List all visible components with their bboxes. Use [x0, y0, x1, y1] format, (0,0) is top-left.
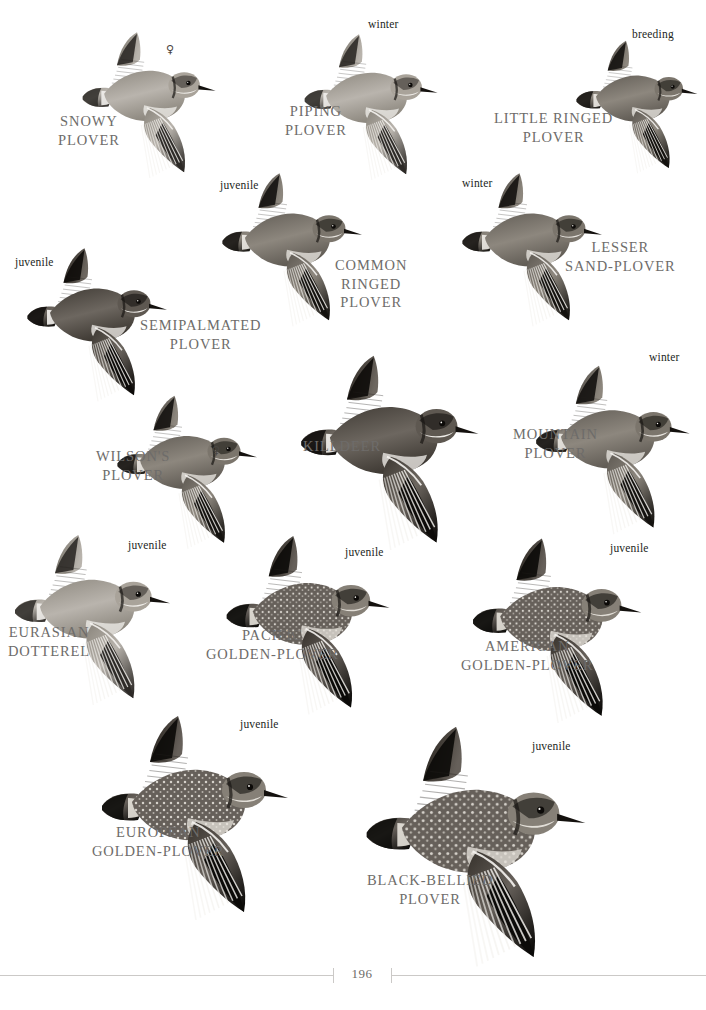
- plumage-note-mountain-plover: winter: [649, 351, 680, 363]
- plumage-note-piping-plover: winter: [368, 18, 399, 30]
- species-label-semipalmated-plover: SEMIPALMATED PLOVER: [140, 316, 261, 353]
- plumage-note-pacific-golden-plover: juvenile: [345, 546, 384, 558]
- female-symbol-wilsons-plover: ♀: [212, 444, 220, 457]
- species-label-eurasian-dotterel: EURASIAN DOTTEREL: [8, 623, 90, 660]
- page-number: 196: [333, 966, 391, 982]
- species-label-lesser-sand-plover: LESSER SAND-PLOVER: [565, 238, 676, 275]
- species-label-american-golden-plover: AMERICAN GOLDEN-PLOVER: [461, 637, 594, 674]
- plumage-note-common-ringed-plover: juvenile: [220, 179, 259, 191]
- species-label-european-golden-plover: EUROPEAN GOLDEN-PLOVER: [92, 823, 225, 860]
- species-label-little-ringed-plover: LITTLE RINGED PLOVER: [494, 109, 613, 146]
- bird-illustration-american-golden-plover: [462, 533, 647, 723]
- female-symbol-snowy-plover: ♀: [166, 43, 174, 56]
- plumage-note-little-ringed-plover: breeding: [632, 28, 674, 40]
- plumage-note-american-golden-plover: juvenile: [610, 542, 649, 554]
- plumage-note-european-golden-plover: juvenile: [240, 718, 279, 730]
- bird-illustration-little-ringed-plover: [570, 30, 700, 180]
- plumage-note-eurasian-dotterel: juvenile: [128, 539, 167, 551]
- plumage-note-lesser-sand-plover: winter: [462, 177, 493, 189]
- footer-rule-left: [0, 975, 333, 976]
- plate-page: SNOWY PLOVER♀PIPING PLOVERwinterLITTLE R…: [0, 0, 706, 1010]
- footer-rule-right: [392, 975, 706, 976]
- species-label-mountain-plover: MOUNTAIN PLOVER: [513, 425, 598, 462]
- bird-illustration-black-bellied-plover: [355, 718, 590, 968]
- page-footer: 196: [0, 964, 706, 986]
- species-label-common-ringed-plover: COMMON RINGED PLOVER: [335, 256, 407, 312]
- bird-illustration-european-golden-plover: [92, 705, 292, 925]
- bird-illustration-snowy-plover: [72, 28, 222, 178]
- species-label-black-bellied-plover: BLACK-BELLIED PLOVER: [367, 871, 493, 908]
- plumage-note-semipalmated-plover: juvenile: [15, 256, 54, 268]
- species-label-killdeer: KILLDEER: [303, 437, 381, 456]
- species-label-piping-plover: PIPING PLOVER: [285, 102, 347, 139]
- species-label-snowy-plover: SNOWY PLOVER: [58, 112, 120, 149]
- species-label-pacific-golden-plover: PACIFIC GOLDEN-PLOVER: [206, 626, 339, 663]
- bird-illustration-eurasian-dotterel: [5, 530, 175, 705]
- species-label-wilsons-plover: WILSON'S PLOVER: [96, 447, 170, 484]
- plumage-note-black-bellied-plover: juvenile: [532, 740, 571, 752]
